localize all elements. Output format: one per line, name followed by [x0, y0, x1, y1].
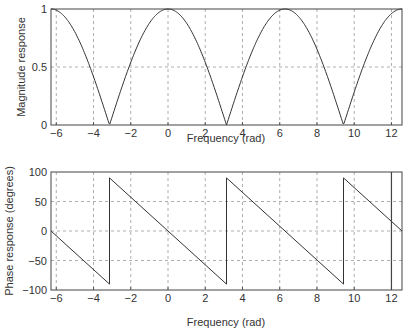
top-y-axis-label: Magnitude response [15, 17, 27, 117]
y-tick-label: 100 [29, 166, 47, 178]
y-tick-label: 0.5 [32, 61, 47, 73]
y-tick-label: 0 [41, 225, 47, 237]
x-tick-label: 10 [348, 292, 360, 304]
x-tick-label: 6 [277, 292, 283, 304]
x-tick-label: −4 [87, 292, 100, 304]
phase-plot: −6−4−2024681012−100−50050100 [22, 166, 402, 304]
x-tick-label: −6 [50, 292, 63, 304]
x-tick-label: 6 [277, 127, 283, 139]
top-x-axis-label: Frequency (rad) [187, 132, 265, 144]
magnitude-plot: −6−4−202468101200.51 [32, 3, 402, 139]
x-tick-label: −4 [87, 127, 100, 139]
x-tick-label: 12 [385, 292, 397, 304]
chart-canvas: −6−4−202468101200.51 −6−4−2024681012−100… [0, 0, 416, 333]
x-tick-label: −6 [50, 127, 63, 139]
x-tick-label: −2 [124, 127, 137, 139]
x-tick-label: 2 [202, 292, 208, 304]
x-tick-label: 4 [239, 292, 245, 304]
y-tick-label: 0 [41, 119, 47, 131]
y-tick-label: −100 [22, 284, 47, 296]
data-line [51, 178, 402, 284]
x-tick-label: 8 [314, 292, 320, 304]
y-tick-label: −50 [28, 255, 47, 267]
x-tick-label: 0 [165, 127, 171, 139]
bottom-x-axis-label: Frequency (rad) [187, 316, 265, 328]
x-tick-label: 8 [314, 127, 320, 139]
bottom-y-axis-label: Phase response (degrees) [3, 166, 15, 296]
y-tick-label: 1 [41, 3, 47, 15]
x-tick-label: 10 [348, 127, 360, 139]
x-tick-label: −2 [124, 292, 137, 304]
x-tick-label: 0 [165, 292, 171, 304]
y-tick-label: 50 [35, 196, 47, 208]
x-tick-label: 12 [385, 127, 397, 139]
